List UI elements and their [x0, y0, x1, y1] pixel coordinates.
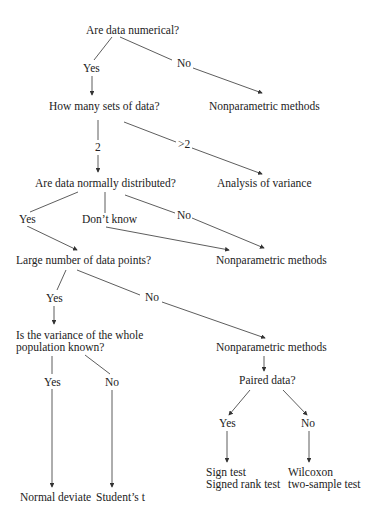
edge-label-normal-yes: Yes [19, 213, 36, 226]
edge-label-numerical-no: No [177, 57, 191, 70]
edge-label-variance-yes: Yes [44, 376, 61, 389]
node-nonparametric-methods-3: Nonparametric methods [216, 341, 327, 354]
edge-label-large-no: No [145, 291, 159, 304]
node-nonparametric-methods-1: Nonparametric methods [209, 100, 320, 113]
edge-label-paired-yes: Yes [219, 417, 236, 430]
node-normal-deviate: Normal deviate [20, 491, 91, 504]
edge-label-numerical-yes: Yes [83, 62, 100, 75]
edge-label-paired-no: No [301, 417, 315, 430]
edge-label-normal-dont-know: Don’t know [82, 213, 137, 226]
node-are-data-numerical: Are data numerical? [86, 24, 179, 37]
node-paired-data: Paired data? [239, 374, 296, 387]
node-wilcoxon-line2: two-sample test [288, 478, 361, 491]
node-how-many-sets: How many sets of data? [49, 100, 160, 113]
edge-label-large-yes: Yes [46, 292, 63, 305]
edge-label-variance-no: No [105, 376, 119, 389]
node-analysis-of-variance: Analysis of variance [217, 177, 312, 190]
node-large-number-of-data-points: Large number of data points? [16, 254, 151, 267]
node-nonparametric-methods-2: Nonparametric methods [216, 254, 327, 267]
edge-label-sets-gt2: >2 [178, 138, 190, 151]
node-variance-known-line2: population known? [16, 341, 104, 354]
node-students-t: Student’s t [96, 491, 145, 504]
edge-label-normal-no: No [177, 209, 191, 222]
node-normally-distributed: Are data normally distributed? [35, 177, 176, 190]
statistics-decision-flowchart: Are data numerical? How many sets of dat… [0, 0, 373, 522]
node-sign-test-line2: Signed rank test [206, 478, 280, 491]
edge-label-sets-2: 2 [95, 141, 101, 154]
